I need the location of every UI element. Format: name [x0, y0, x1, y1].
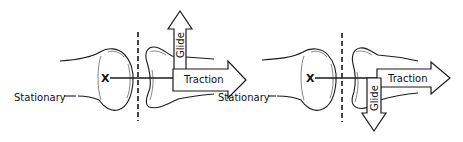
- glide-arrow-up: Glide: [168, 11, 192, 75]
- traction-label: Traction: [387, 73, 428, 84]
- axis-marker: X: [101, 72, 110, 85]
- traction-label: Traction: [183, 74, 224, 85]
- glide-label: Glide: [175, 32, 186, 58]
- stationary-bone: [262, 49, 336, 111]
- traction-arrow: Traction: [377, 62, 450, 94]
- stationary-bone: [60, 49, 133, 111]
- right-panel: Stationary X Traction Glide: [218, 33, 450, 131]
- axis-marker: X: [306, 72, 315, 85]
- stationary-label: Stationary: [14, 92, 66, 103]
- glide-label: Glide: [369, 85, 380, 111]
- joint-mobilization-diagram: Stationary X Glide Traction: [0, 0, 463, 142]
- left-panel: Stationary X Glide Traction: [14, 11, 246, 121]
- stationary-label: Stationary: [218, 92, 270, 103]
